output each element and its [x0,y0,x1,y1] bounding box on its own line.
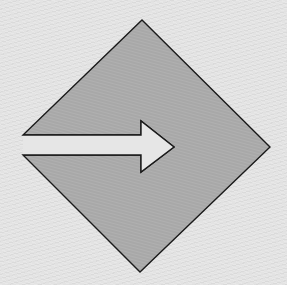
diamond-arrow-graphic [0,0,287,285]
diagram-canvas: Merge / enter arrow into diamond [0,0,287,285]
